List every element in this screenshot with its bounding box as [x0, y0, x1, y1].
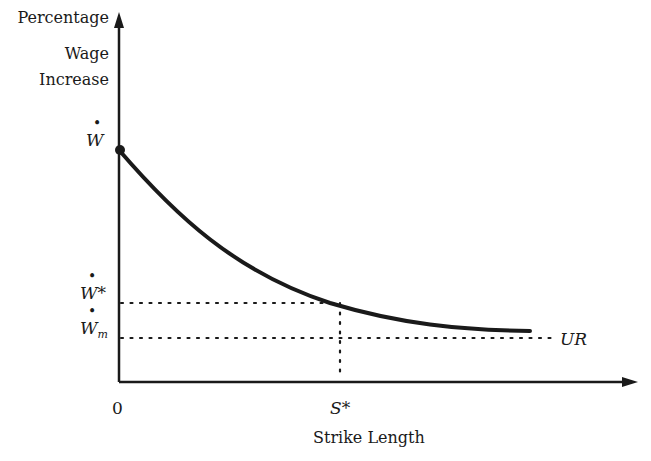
w-m-dot-accent: •: [88, 306, 96, 316]
x-axis-title: Strike Length: [313, 428, 425, 448]
w-dot-marker: [115, 145, 125, 155]
w-m-label: Wm: [80, 318, 108, 345]
w-dot-label: W: [86, 130, 103, 150]
s-star-label: S*: [330, 398, 350, 418]
w-star-label: W*: [80, 283, 106, 303]
y-axis-label-line2: Wage: [65, 44, 109, 63]
w-dot-accent: •: [93, 118, 101, 128]
x-axis-arrow-icon: [622, 377, 638, 387]
y-axis-label-line3: Increase: [39, 70, 109, 89]
w-star-dot-accent: •: [88, 271, 96, 281]
ur-label: UR: [560, 329, 587, 349]
y-axis-label-line1: Percentage: [17, 8, 109, 27]
y-axis-arrow-icon: [114, 12, 124, 28]
origin-label: 0: [112, 398, 123, 418]
